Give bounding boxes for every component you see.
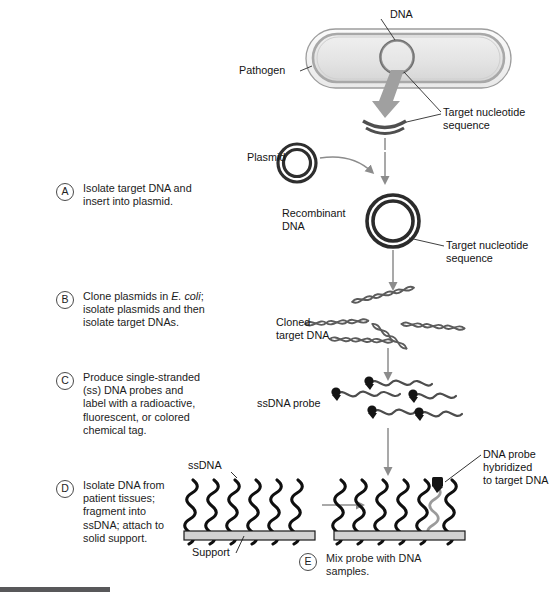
step-b: B Clone plasmids in E. coli; isolate pla… xyxy=(56,290,246,330)
step-a-badge: A xyxy=(56,183,74,201)
solid-support-bar-icon xyxy=(184,531,315,540)
label-support: Support xyxy=(192,546,230,559)
step-b-text-italic: E. coli xyxy=(171,290,200,302)
step-b-text: Clone plasmids in E. coli; isolate plasm… xyxy=(83,290,205,330)
step-e-text: Mix probe with DNA samples. xyxy=(326,552,421,578)
step-b-badge: B xyxy=(56,291,74,309)
step-b-text-before: Clone plasmids in xyxy=(83,290,171,302)
label-dna-probe-hybridized: DNA probe hybridized to target DNA xyxy=(483,448,548,488)
step-c-badge: C xyxy=(56,372,74,390)
recombinant-plasmid-ring-icon xyxy=(367,195,419,247)
step-d-badge: D xyxy=(56,480,74,498)
step-e: E Mix probe with DNA samples. xyxy=(299,552,449,578)
dna-arc-fragment-icon xyxy=(363,121,406,134)
label-recombinant-dna: Recombinant DNA xyxy=(282,207,346,233)
leader-line-icon xyxy=(231,472,237,478)
hybridized-probe-strand xyxy=(428,486,441,537)
label-target-nucleotide-sequence-mid: Target nucleotide sequence xyxy=(446,239,528,265)
label-target-nucleotide-sequence-top: Target nucleotide sequence xyxy=(443,106,525,132)
leader-line-icon xyxy=(445,455,481,482)
step-a-text: Isolate target DNA and insert into plasm… xyxy=(83,182,192,208)
step-c-text: Produce single-stranded (ss) DNA probes … xyxy=(83,371,200,437)
step-d: D Isolate DNA from patient tissues; frag… xyxy=(56,479,186,545)
step-a: A Isolate target DNA and insert into pla… xyxy=(56,182,236,208)
label-dna: DNA xyxy=(390,8,413,21)
solid-support-bar-icon xyxy=(334,531,465,540)
label-ssdna: ssDNA xyxy=(188,459,222,472)
labeled-ssdna-probe-icon xyxy=(337,381,462,417)
caption-bar xyxy=(0,587,110,592)
leader-line-icon xyxy=(409,238,444,246)
label-pathogen: Pathogen xyxy=(239,64,285,77)
step-e-badge: E xyxy=(299,553,317,571)
label-cloned-target-dna: Cloned target DNA xyxy=(276,316,329,342)
step-d-text: Isolate DNA from patient tissues; fragme… xyxy=(83,479,165,545)
step-c: C Produce single-stranded (ss) DNA probe… xyxy=(56,371,231,437)
curved-arrow-icon xyxy=(320,157,372,172)
label-ssdna-probe: ssDNA probe xyxy=(257,397,321,410)
label-plasmid: Plasmid xyxy=(247,151,285,164)
circular-dna-icon xyxy=(381,41,414,74)
dna-probe-hybridization-figure: A Isolate target DNA and insert into pla… xyxy=(0,0,557,592)
